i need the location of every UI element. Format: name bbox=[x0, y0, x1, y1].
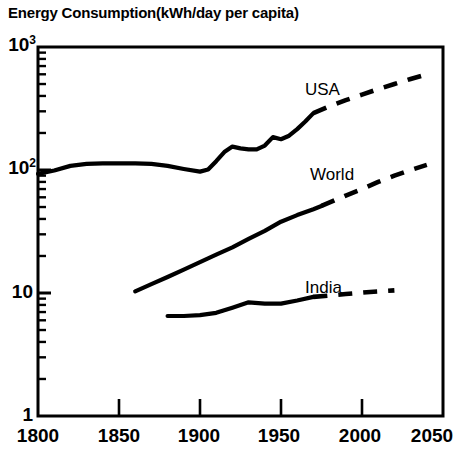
series-paths bbox=[38, 74, 427, 316]
y-axis-ticks bbox=[38, 53, 51, 379]
x-axis-ticks bbox=[119, 399, 362, 416]
chart-figure: Energy Consumption(kWh/day per capita) 1… bbox=[0, 0, 462, 452]
axis-frame bbox=[38, 47, 443, 416]
plot-area bbox=[0, 0, 462, 452]
